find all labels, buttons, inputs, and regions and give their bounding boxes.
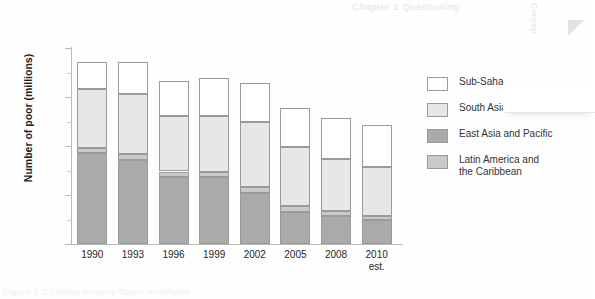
- bar-group: [159, 48, 189, 244]
- legend-swatch-latin-america-and-the-caribbean: [427, 155, 448, 169]
- page-header-text: Chapter 1 Questioning: [352, 1, 460, 12]
- bar-segment: [280, 147, 310, 206]
- bar-segment: [77, 89, 107, 148]
- x-axis-tick-sublabel: est.: [349, 261, 405, 273]
- stacked-bar-chart: Number of poor (millions) 05001000150020…: [0, 30, 420, 270]
- bar-group: [118, 48, 148, 244]
- bar-segment: [77, 62, 107, 89]
- bar-segment: [280, 206, 310, 212]
- plot-area: [72, 48, 397, 244]
- bar-segment: [240, 193, 270, 244]
- bar-segment: [159, 177, 189, 244]
- bar-segment: [118, 94, 148, 155]
- bar-segment: [362, 220, 392, 244]
- bar-group: [240, 48, 270, 244]
- bar-segment: [362, 216, 392, 221]
- legend-item-latin-america-and-the-caribbean: Latin America and the Caribbean: [427, 154, 592, 180]
- bar-segment: [118, 62, 148, 93]
- bar-segment: [199, 172, 229, 177]
- bar-segment: [77, 153, 107, 244]
- bar-group: [321, 48, 351, 244]
- bar-segment: [159, 81, 189, 115]
- legend-label: Sub-Saha: [459, 76, 503, 88]
- bar-segment: [280, 108, 310, 147]
- x-axis-line: [71, 244, 403, 245]
- legend-label: East Asia and Pacific: [459, 128, 552, 140]
- bar-segment: [240, 187, 270, 193]
- page-corner-fold-icon: [568, 20, 584, 36]
- bar-segment: [199, 78, 229, 116]
- y-axis-title: Number of poor (millions): [22, 33, 34, 203]
- bar-segment: [199, 116, 229, 172]
- bar-group: [77, 48, 107, 244]
- bar-segment: [321, 211, 351, 216]
- bar-segment: [77, 148, 107, 153]
- bar-segment: [362, 125, 392, 167]
- legend-label: Latin America and the Caribbean: [459, 154, 539, 178]
- y-axis-major-tick: [65, 195, 72, 196]
- bar-segment: [362, 167, 392, 216]
- side-tab-text: Concep: [530, 3, 539, 34]
- bar-group: [199, 48, 229, 244]
- bar-segment: [321, 216, 351, 244]
- bar-segment: [159, 116, 189, 172]
- bar-segment: [199, 177, 229, 244]
- legend-swatch-east-asia-and-pacific: [427, 129, 448, 143]
- y-axis-major-tick: [65, 97, 72, 98]
- y-axis-major-tick: [65, 146, 72, 147]
- bar-segment: [280, 212, 310, 244]
- bar-segment: [118, 160, 148, 244]
- legend-item-east-asia-and-pacific: East Asia and Pacific: [427, 128, 592, 154]
- bar-segment: [321, 159, 351, 211]
- page-curl-overlay: [503, 84, 595, 113]
- legend-swatch-sub-saharan-africa: [427, 77, 448, 91]
- bar-segment: [240, 83, 270, 122]
- legend-swatch-south-asia: [427, 103, 448, 117]
- bar-segment: [240, 122, 270, 186]
- bar-group: [280, 48, 310, 244]
- legend-label: South Asia: [459, 102, 507, 114]
- y-axis-major-tick: [65, 48, 72, 49]
- figure-caption: Figure 1.3 Falling Poverty Rates worldwi…: [3, 287, 191, 297]
- x-axis-tick-label: 2010est.: [349, 249, 405, 272]
- bar-group: [362, 48, 392, 244]
- bar-segment: [118, 154, 148, 159]
- y-axis-major-tick: [65, 244, 72, 245]
- bar-segment: [159, 172, 189, 177]
- bar-segment: [321, 118, 351, 159]
